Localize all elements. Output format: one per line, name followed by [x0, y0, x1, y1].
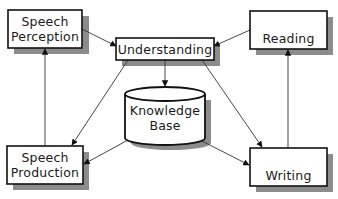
knowledge-base-label-line2: Base — [149, 118, 180, 133]
edge-knowledge-base-to-writing — [200, 140, 249, 165]
node-knowledge-base: Knowledge Base — [125, 87, 205, 145]
edge-reading-to-understanding — [214, 30, 250, 46]
edge-understanding-to-speech-production — [72, 60, 128, 145]
language-processing-diagram: Speech Perception Understanding Reading … — [0, 0, 338, 199]
understanding-label: Understanding — [118, 42, 213, 57]
writing-label: Writing — [265, 168, 311, 183]
node-speech-perception: Speech Perception — [8, 10, 82, 48]
knowledge-base-cylinder-top — [125, 87, 205, 101]
edge-knowledge-base-to-speech-production — [84, 140, 128, 164]
node-speech-production: Speech Production — [7, 146, 83, 184]
reading-label: Reading — [262, 31, 314, 46]
node-understanding: Understanding — [116, 38, 214, 60]
speech-perception-label-line1: Speech — [21, 14, 68, 29]
speech-perception-label-line2: Perception — [11, 29, 79, 44]
speech-production-label-line1: Speech — [21, 150, 68, 165]
speech-production-label-line2: Production — [11, 165, 80, 180]
node-writing: Writing — [250, 148, 327, 186]
knowledge-base-label-line1: Knowledge — [130, 103, 201, 118]
node-reading: Reading — [250, 11, 327, 49]
